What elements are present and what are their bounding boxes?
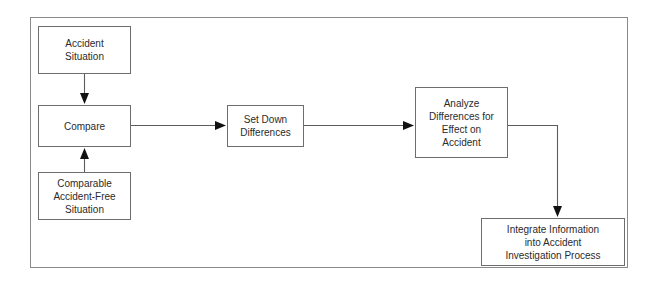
node-compare[interactable]: Compare	[38, 105, 131, 147]
node-analyze-differences-label: Analyze Differences for Effect on Accide…	[429, 97, 494, 149]
node-compare-label: Compare	[64, 120, 105, 133]
node-comparable-accident-free-situation-label: Comparable Accident-Free Situation	[53, 177, 115, 216]
node-set-down-differences[interactable]: Set Down Differences	[227, 105, 304, 147]
node-set-down-differences-label: Set Down Differences	[240, 113, 290, 139]
node-accident-situation[interactable]: Accident Situation	[38, 26, 131, 74]
node-analyze-differences[interactable]: Analyze Differences for Effect on Accide…	[415, 87, 508, 158]
diagram-canvas: Accident Situation Compare Comparable Ac…	[0, 0, 659, 286]
node-integrate-information-label: Integrate Information into Accident Inve…	[505, 223, 600, 262]
node-integrate-information[interactable]: Integrate Information into Accident Inve…	[481, 218, 625, 266]
node-accident-situation-label: Accident Situation	[65, 37, 104, 63]
node-comparable-accident-free-situation[interactable]: Comparable Accident-Free Situation	[38, 172, 131, 220]
